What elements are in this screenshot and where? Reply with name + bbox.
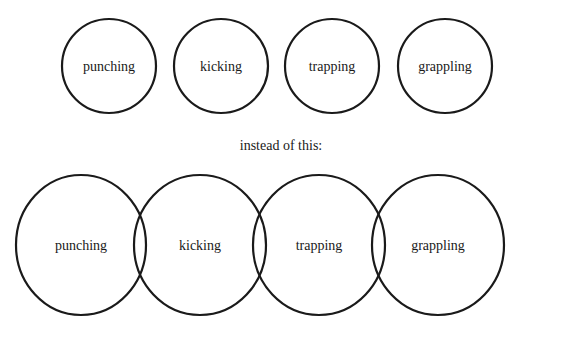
circle-label: grappling [418, 59, 472, 74]
circle-label: trapping [296, 238, 343, 253]
diagram-canvas: punching kicking trapping grappling inst… [0, 0, 561, 337]
circle-trapping-overlap: trapping [253, 175, 385, 315]
circle-grappling-separate: grappling [398, 19, 492, 113]
circle-punching-separate: punching [62, 19, 156, 113]
circle-grappling-overlap: grappling [372, 175, 504, 315]
circle-label: trapping [309, 59, 356, 74]
circle-label: kicking [179, 238, 221, 253]
circle-label: grappling [411, 238, 465, 253]
circle-label: punching [83, 59, 135, 74]
separate-circles-row: punching kicking trapping grappling [62, 19, 492, 113]
caption: instead of this: [240, 138, 322, 153]
circle-label: punching [55, 238, 107, 253]
circle-trapping-separate: trapping [285, 19, 379, 113]
circle-punching-overlap: punching [16, 175, 146, 315]
overlapping-circles-row: punching kicking trapping grappling [16, 175, 504, 315]
circle-kicking-separate: kicking [174, 19, 268, 113]
circle-kicking-overlap: kicking [134, 175, 266, 315]
circle-label: kicking [200, 59, 242, 74]
